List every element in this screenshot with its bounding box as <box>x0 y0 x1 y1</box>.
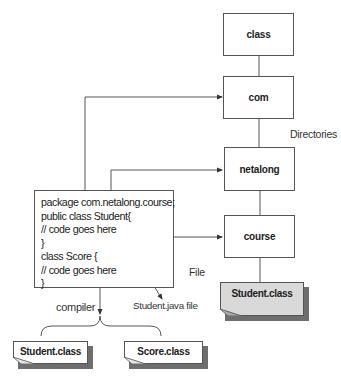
directory-box-class: class <box>223 13 294 56</box>
file-label: Score.class <box>137 346 189 357</box>
directory-label: course <box>244 231 276 242</box>
compiler-bracket <box>41 316 161 336</box>
arrow-package-to-com <box>85 97 222 190</box>
folded-corner-icon <box>124 357 146 364</box>
source-code-box: package com.netalong.course; public clas… <box>34 190 174 288</box>
file-label: Student.class <box>20 346 81 357</box>
code-line: // code goes here <box>41 222 162 236</box>
code-line: package com.netalong.course; <box>41 195 162 209</box>
directories-label: Directories <box>290 128 337 140</box>
directory-box-netalong: netalong <box>224 147 295 191</box>
arrow-package-to-netalong <box>111 170 222 190</box>
compiler-label: compiler <box>56 301 95 313</box>
score-class-output: Score.class <box>124 341 203 364</box>
code-line: } <box>41 276 162 290</box>
directory-box-course: course <box>224 215 295 258</box>
student-class-file-in-course: Student.class <box>220 282 304 316</box>
student-class-output: Student.class <box>13 341 88 364</box>
file-label: Student.class <box>231 288 292 299</box>
code-line: class Score { <box>41 249 162 263</box>
directory-label: netalong <box>239 164 279 175</box>
folded-corner-icon <box>13 357 35 364</box>
file-label: File <box>189 266 205 278</box>
java-file-caption: Student.java file <box>133 300 198 311</box>
code-line: public class Student{ <box>41 209 162 223</box>
directory-label: class <box>246 29 270 40</box>
folded-corner-icon <box>220 309 242 316</box>
directory-box-com: com <box>223 76 294 119</box>
code-line: } <box>41 236 162 250</box>
directory-label: com <box>249 92 269 103</box>
code-line: // code goes here <box>41 263 162 277</box>
